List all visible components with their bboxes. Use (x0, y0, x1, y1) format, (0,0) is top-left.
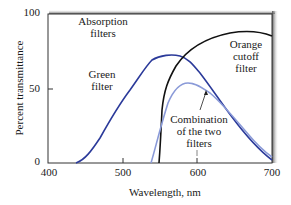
frame-shadow-top (49, 10, 275, 14)
x-tick-label-700: 700 (257, 166, 287, 178)
orange-cutoff-filter-label: Orange cutoff filter (222, 38, 270, 74)
x-tick-label-400: 400 (34, 166, 64, 178)
y-axis-label: Percent transmittance (13, 33, 25, 143)
absorption-filters-label: Absorption filters (68, 15, 138, 39)
y-tick-label-100: 100 (16, 6, 40, 18)
x-axis-label: Wavelength, nm (110, 186, 220, 198)
x-tick-label-500: 500 (108, 166, 138, 178)
green-filter-label: Green filter (82, 68, 122, 92)
frame-shadow-right (272, 11, 278, 163)
x-tick-label-600: 600 (183, 166, 213, 178)
transmittance-chart: 100 50 0 400 500 600 700 Percent transmi… (0, 0, 291, 205)
combination-label: Combination of the two filters (164, 113, 234, 149)
